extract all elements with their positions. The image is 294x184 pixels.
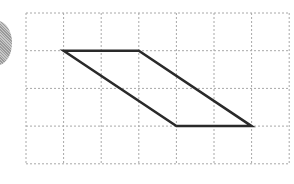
dotted-grid — [26, 13, 289, 164]
grid-parallelogram-figure — [0, 0, 294, 184]
diagram-canvas — [0, 0, 294, 184]
